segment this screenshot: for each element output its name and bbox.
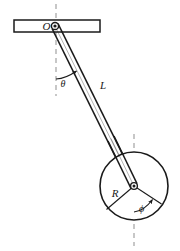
diagram-canvas: O θ L R ϕ [0, 0, 180, 251]
disk-center-dot [133, 185, 136, 188]
phi-label: ϕ [139, 203, 144, 214]
physics-diagram-figure: O θ L R ϕ [0, 0, 180, 251]
pivot-dot [53, 24, 56, 27]
disk-radius-label: R [111, 187, 119, 199]
rod-length-label: L [99, 79, 106, 91]
pivot-label: O [43, 20, 51, 32]
theta-label: θ [61, 78, 66, 89]
